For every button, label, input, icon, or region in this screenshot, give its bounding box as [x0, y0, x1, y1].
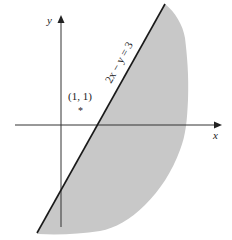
point-marker: * — [78, 105, 83, 116]
x-axis-arrow-icon — [214, 122, 222, 129]
point-label: (1, 1) — [68, 90, 92, 103]
shaded-region — [37, 4, 188, 234]
y-axis-arrow-icon — [58, 15, 65, 23]
y-axis-label: y — [46, 14, 52, 26]
inequality-diagram: x y 2x − y = 3 (1, 1) * — [0, 0, 232, 240]
x-axis-label: x — [212, 129, 218, 141]
